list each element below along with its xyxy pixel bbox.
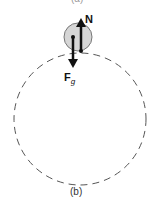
- circular-path: [14, 53, 146, 185]
- gravity-label-main: F: [64, 71, 71, 83]
- ball: [64, 23, 92, 51]
- figure-caption: (b): [70, 186, 82, 197]
- top-caption-partial: (a): [71, 0, 83, 4]
- normal-force-label: N: [85, 13, 93, 25]
- gravity-force-label: Fg: [64, 71, 75, 83]
- diagram-canvas: [0, 0, 157, 207]
- gravity-label-subscript: g: [71, 77, 75, 86]
